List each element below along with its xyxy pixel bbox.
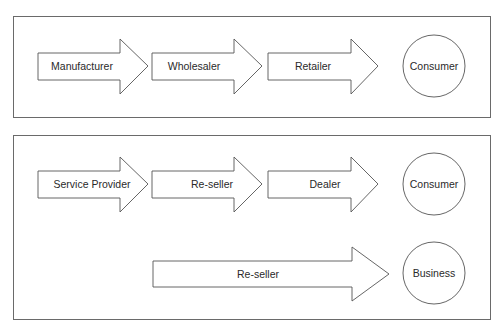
arrow-label: Wholesaler (168, 60, 221, 72)
arrow-manufacturer: Manufacturer (38, 39, 148, 94)
arrow-retailer: Retailer (268, 39, 378, 94)
endpoint-business: Business (403, 242, 465, 304)
arrow-label: Re-seller (191, 178, 234, 190)
endpoint-consumer-bottom: Consumer (403, 153, 465, 215)
arrow-label: Retailer (295, 60, 332, 72)
endpoint-label: Consumer (410, 178, 459, 190)
arrow-label: Manufacturer (51, 60, 113, 72)
arrow-label: Service Provider (53, 178, 131, 190)
arrow-wholesaler: Wholesaler (152, 39, 262, 94)
arrow-service-provider: Service Provider (38, 157, 148, 212)
arrow-dealer: Dealer (268, 157, 378, 212)
arrow-label: Re-seller (237, 268, 280, 280)
endpoint-label: Business (413, 267, 456, 279)
distribution-diagram: Manufacturer Wholesaler Retailer Consume… (0, 0, 503, 329)
endpoint-label: Consumer (410, 60, 459, 72)
endpoint-consumer-top: Consumer (403, 35, 465, 97)
arrow-re-seller: Re-seller (152, 157, 262, 212)
arrow-label: Dealer (310, 178, 341, 190)
arrow-re-seller-long: Re-seller (153, 247, 389, 301)
